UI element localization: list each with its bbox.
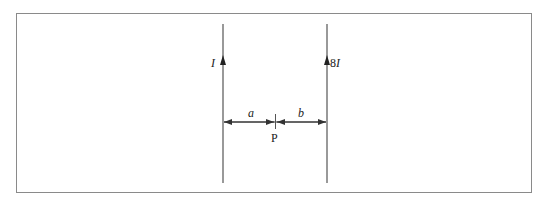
left-current-label: I [210, 56, 216, 70]
current-arrow-icon [220, 55, 226, 65]
point-p-label: P [271, 131, 278, 145]
dimension-b: b [276, 106, 326, 122]
dimension-b-label: b [298, 106, 304, 120]
wires-diagram: I 8I a b P [0, 0, 546, 202]
dimension-a-label: a [248, 106, 254, 120]
right-current-label: 8I [330, 56, 341, 70]
left-wire: I [210, 24, 226, 183]
dimension-a: a [224, 106, 275, 122]
point-p: P [271, 114, 278, 145]
right-wire: 8I [324, 24, 341, 183]
